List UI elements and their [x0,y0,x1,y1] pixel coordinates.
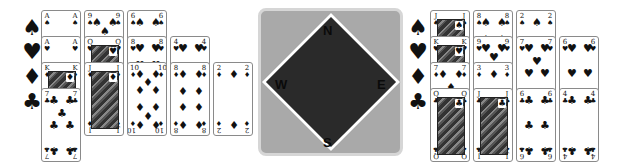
suit-pip-icon: ♦ [193,119,205,130]
suit-pip-icon: ♦ [177,119,189,130]
suit-pip-icon: ♠ [480,17,492,28]
suit-pip-icon: ♥ [134,43,146,54]
suit-pip-icon: ♣ [566,95,578,106]
face-suit-icon: ♥ [109,47,117,56]
card[interactable]: 8♦8♦8♦8♦♦♦♦♦♦♦♦♦ [170,62,210,136]
suit-pip-icon: ♣ [539,145,551,156]
card-rank: 3♦ [504,65,510,79]
suit-pip-icon: ♥ [193,43,205,54]
card[interactable]: 7♣7♣7♣7♣♣♣♣♣♣♣♣ [41,88,81,162]
card-rank: A♥ [72,39,78,53]
card[interactable]: 4♣4♣4♣4♣♣♣♣♣ [559,88,599,162]
suit-pip-icon: ♥ [566,68,578,79]
suit-pip-icon: ♣ [523,95,535,106]
card-rank: 3♦ [476,65,482,79]
suit-pip-icon: ♥ [566,43,578,54]
face-suit-icon: ♥ [455,47,463,56]
suit-pip-icon: ♣ [48,145,60,156]
suit-pip-icon: ♣ [64,95,76,106]
card[interactable]: 2♦2♦2♦2♦♦♦ [213,62,253,136]
suit-pip-icon: ♦ [177,69,189,80]
suit-pip-icon: ♦ [134,119,146,130]
card-rank: A♠ [72,13,78,27]
face-suit-icon: ♠ [455,21,463,30]
suit-pip-icon: ♣ [523,145,535,156]
face-suit-icon: ♦ [66,73,74,82]
card-rank: 2♦ [216,65,222,79]
suit-pip-icon: ♦ [177,86,189,97]
suit-pip-icon: ♥ [539,43,551,54]
card[interactable]: 10♦10♦10♦10♦♦♦♦♦♦♦♦♦♦♦ [127,62,167,136]
suit-pip-icon: ♦ [150,85,162,96]
suit-pip-icon: ♦ [453,69,465,80]
south-label: S [323,135,332,150]
card-rank: A♠ [44,13,50,27]
suit-pip-icon: ♦ [150,119,162,130]
suit-pip-icon: ♣ [582,145,594,156]
suit-pip-icon: ♣ [539,120,551,131]
suit-pip-icon: ♦ [228,119,240,130]
card-rank: 2♦ [216,119,222,133]
face-suit-icon: ♣ [455,99,463,108]
suit-pip-icon: ♣ [539,95,551,106]
card[interactable]: 6♣6♣6♣6♣♣♣♣♣♣♣ [516,88,556,162]
heart-suit-icon: ♥ [406,41,430,63]
face-card-image: ♦ [91,71,119,129]
suit-pip-icon: ♦ [437,69,449,80]
suit-pip-icon: ♥ [523,43,535,54]
north-label: N [323,23,332,38]
club-suit-icon: ♣ [406,91,430,113]
suit-pip-icon: ♥ [523,68,535,79]
suit-pip-icon: ♣ [48,95,60,106]
suit-pip-icon: ♣ [48,120,60,131]
suit-pip-icon: ♦ [193,69,205,80]
suit-pip-icon: ♥ [150,43,162,54]
suit-pip-icon: ♣ [523,120,535,131]
compass-table: N S W E [258,8,403,156]
face-suit-icon: ♣ [498,99,506,108]
card-rank: A♥ [44,39,50,53]
suit-pip-icon: ♦ [488,69,500,80]
suit-pip-icon: ♦ [193,86,205,97]
suit-pip-icon: ♦ [228,69,240,80]
suit-pip-icon: ♣ [64,145,76,156]
spade-suit-icon: ♠ [406,17,430,39]
suit-pip-icon: ♠ [150,17,162,28]
face-card-image: ♣ [437,97,465,155]
diamond-suit-icon: ♦ [406,66,430,88]
card[interactable]: J♦J♦J♦J♦♦ [84,62,124,136]
suit-pip-icon: ♠ [496,17,508,28]
suit-pip-icon: ♠ [531,17,543,28]
suit-pip-icon: ♣ [582,95,594,106]
suit-pip-icon: ♦ [177,102,189,113]
suit-pip-icon: ♣ [64,120,76,131]
west-label: W [275,77,287,92]
card-rank: 2♠ [547,13,553,27]
suit-pip-icon: ♥ [539,68,551,79]
card[interactable]: Q♣Q♣Q♣Q♣♣ [430,88,470,162]
face-card-image: ♣ [480,97,508,155]
suit-pip-icon: ♦ [193,102,205,113]
suit-pip-icon: ♥ [582,43,594,54]
suit-pip-icon: ♥ [582,68,594,79]
suit-pip-icon: ♥ [177,43,189,54]
card-rank: 2♦ [244,65,250,79]
suit-pip-icon: ♣ [56,108,68,119]
suit-pip-icon: ♣ [566,145,578,156]
suit-pip-icon: ♥ [531,56,543,67]
suit-pip-icon: ♠ [134,17,146,28]
east-label: E [377,77,386,92]
card[interactable]: J♣J♣J♣J♣♣ [473,88,513,162]
card-rank: 2♠ [519,13,525,27]
face-suit-icon: ♦ [109,73,117,82]
suit-pip-icon: ♦ [134,85,146,96]
card-rank: 2♦ [244,119,250,133]
